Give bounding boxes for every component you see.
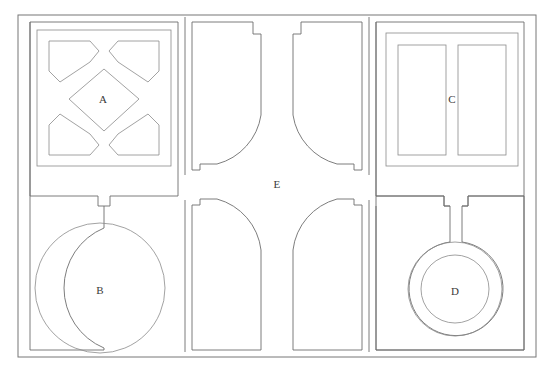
room-a-corner-pentagon-bottom-left xyxy=(49,114,99,155)
room-c-bay-left xyxy=(398,45,446,155)
room-c-bay-right xyxy=(458,45,506,155)
room-a-corner-pentagon-bottom-right xyxy=(109,114,159,155)
room-a-corner-pentagon-top-left xyxy=(49,41,99,82)
room-label-d: D xyxy=(451,285,459,297)
lower-middle-left-wing xyxy=(192,199,261,350)
room-label-c: C xyxy=(448,93,456,105)
room-label-b: B xyxy=(96,284,104,296)
upper-middle-right-wing xyxy=(293,22,362,170)
left-wing-top-boundary xyxy=(30,22,178,206)
floor-plan-drawing: A B E xyxy=(0,0,554,376)
left-wing-outline xyxy=(30,22,104,350)
right-wing-mid-band xyxy=(376,196,450,206)
lower-middle-right-wing xyxy=(293,199,362,350)
floor-plan-canvas: A B E xyxy=(0,0,554,376)
upper-middle-left-wing xyxy=(192,22,261,170)
room-label-e: E xyxy=(274,178,281,190)
room-label-a: A xyxy=(99,93,107,105)
right-wing-mid-band-right xyxy=(462,196,524,206)
room-a-corner-pentagon-top-right xyxy=(109,41,159,82)
